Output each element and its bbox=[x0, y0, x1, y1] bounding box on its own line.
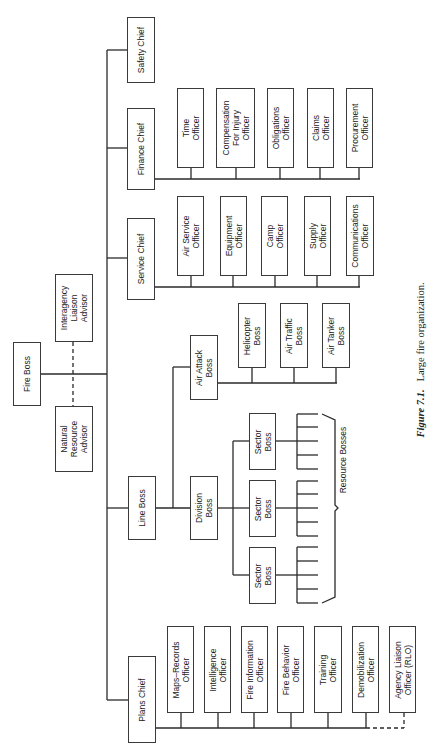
safety-chief-box: Safety Chief bbox=[127, 17, 155, 83]
fire-information-officer-box: Fire Information Officer bbox=[241, 626, 268, 713]
officer-label: Communications Officer bbox=[350, 204, 370, 267]
figure-caption: Figure 7.1. Large fire organization. bbox=[415, 282, 426, 437]
finance-chief-box: Finance Chief bbox=[127, 108, 155, 190]
supply-officer-box: Supply Officer bbox=[304, 196, 331, 276]
interagency-liaison-advisor-label: Interagency Liaison Advisor bbox=[59, 286, 89, 330]
compensation-for-injury-officer-box: Compensation For Injury Officer bbox=[216, 88, 255, 168]
boss-label: Air Tanker Boss bbox=[326, 316, 346, 354]
intelligence-officer-box: Intelligence Officer bbox=[204, 626, 231, 713]
officer-label: Procurement Officer bbox=[350, 104, 370, 153]
officer-label: Claims Officer bbox=[311, 115, 331, 141]
camp-officer-box: Camp Officer bbox=[261, 196, 288, 276]
officer-label: Demobilization Officer bbox=[356, 642, 376, 698]
air-traffic-boss-box: Air Traffic Boss bbox=[280, 303, 308, 368]
officer-label: Camp Officer bbox=[265, 224, 285, 249]
fire-boss-box: Fire Boss bbox=[13, 342, 41, 406]
line-boss-box: Line Boss bbox=[128, 476, 156, 540]
officer-label: Fire Information Officer bbox=[245, 640, 265, 700]
org-chart: Fire Boss Interagency Liaison Advisor Na… bbox=[0, 0, 435, 743]
training-officer-box: Training Officer bbox=[314, 626, 342, 713]
service-chief-label: Service Chief bbox=[136, 234, 146, 285]
officer-label: Air Service Officer bbox=[181, 215, 201, 256]
officer-label: Agency Liaison Officer (RLO) bbox=[393, 641, 413, 699]
plans-chief-label: Plans Chief bbox=[137, 678, 147, 721]
safety-chief-label: Safety Chief bbox=[136, 27, 146, 73]
boss-label: Air Traffic Boss bbox=[284, 318, 304, 354]
officer-label: Supply Officer bbox=[308, 223, 328, 249]
sector-boss-box-2: Sector Boss bbox=[249, 480, 276, 537]
fire-behavior-officer-box: Fire Behavior Officer bbox=[277, 626, 304, 713]
natural-resource-advisor-box: Natural Resource Advisor bbox=[55, 406, 93, 472]
officer-label: Intelligence Officer bbox=[208, 648, 228, 691]
officer-label: Maps–Records Officer bbox=[171, 641, 191, 698]
officer-label: Training Officer bbox=[318, 654, 338, 684]
division-boss-box: Division Boss bbox=[190, 476, 218, 540]
helicopter-boss-box: Helicopter Boss bbox=[238, 303, 266, 368]
procurement-officer-box: Procurement Officer bbox=[346, 88, 373, 168]
officer-label: Compensation For Injury Officer bbox=[221, 101, 251, 156]
sector-boss-box-3: Sector Boss bbox=[249, 547, 276, 604]
division-boss-label: Division Boss bbox=[194, 493, 214, 523]
communications-officer-box: Communications Officer bbox=[346, 196, 374, 276]
air-attack-boss-box: Air Attack Boss bbox=[190, 335, 218, 400]
air-attack-boss-label: Air Attack Boss bbox=[194, 350, 214, 386]
time-officer-box: Time Officer bbox=[177, 88, 204, 168]
natural-resource-advisor-label: Natural Resource Advisor bbox=[59, 421, 89, 457]
demobilization-officer-box: Demobilization Officer bbox=[352, 626, 379, 713]
finance-chief-label: Finance Chief bbox=[136, 123, 146, 175]
resource-bosses-label: Resource Bosses bbox=[338, 427, 348, 494]
air-tanker-boss-box: Air Tanker Boss bbox=[322, 303, 350, 368]
line-boss-label: Line Boss bbox=[137, 489, 147, 526]
figure-number: Figure 7.1. bbox=[415, 389, 426, 437]
equipment-officer-box: Equipment Officer bbox=[220, 196, 247, 276]
boss-label: Helicopter Boss bbox=[242, 316, 262, 354]
fire-boss-label: Fire Boss bbox=[22, 356, 32, 392]
air-service-officer-box: Air Service Officer bbox=[177, 196, 204, 276]
maps-records-officer-box: Maps–Records Officer bbox=[167, 626, 194, 713]
service-chief-box: Service Chief bbox=[127, 218, 155, 300]
officer-label: Obligations Officer bbox=[271, 107, 291, 150]
sector-boss-label: Sector Boss bbox=[253, 563, 273, 588]
plans-chief-box: Plans Chief bbox=[128, 656, 156, 743]
sector-boss-box-1: Sector Boss bbox=[249, 413, 276, 470]
obligations-officer-box: Obligations Officer bbox=[267, 88, 294, 168]
interagency-liaison-advisor-box: Interagency Liaison Advisor bbox=[55, 274, 93, 342]
officer-label: Time Officer bbox=[181, 116, 201, 141]
figure-caption-text: Large fire organization. bbox=[415, 282, 426, 381]
claims-officer-box: Claims Officer bbox=[307, 88, 334, 168]
agency-liaison-officer-box: Agency Liaison Officer (RLO) bbox=[389, 626, 416, 713]
sector-boss-label: Sector Boss bbox=[253, 429, 273, 454]
officer-label: Fire Behavior Officer bbox=[281, 644, 301, 695]
sector-boss-label: Sector Boss bbox=[253, 496, 273, 521]
officer-label: Equipment Officer bbox=[224, 216, 244, 257]
